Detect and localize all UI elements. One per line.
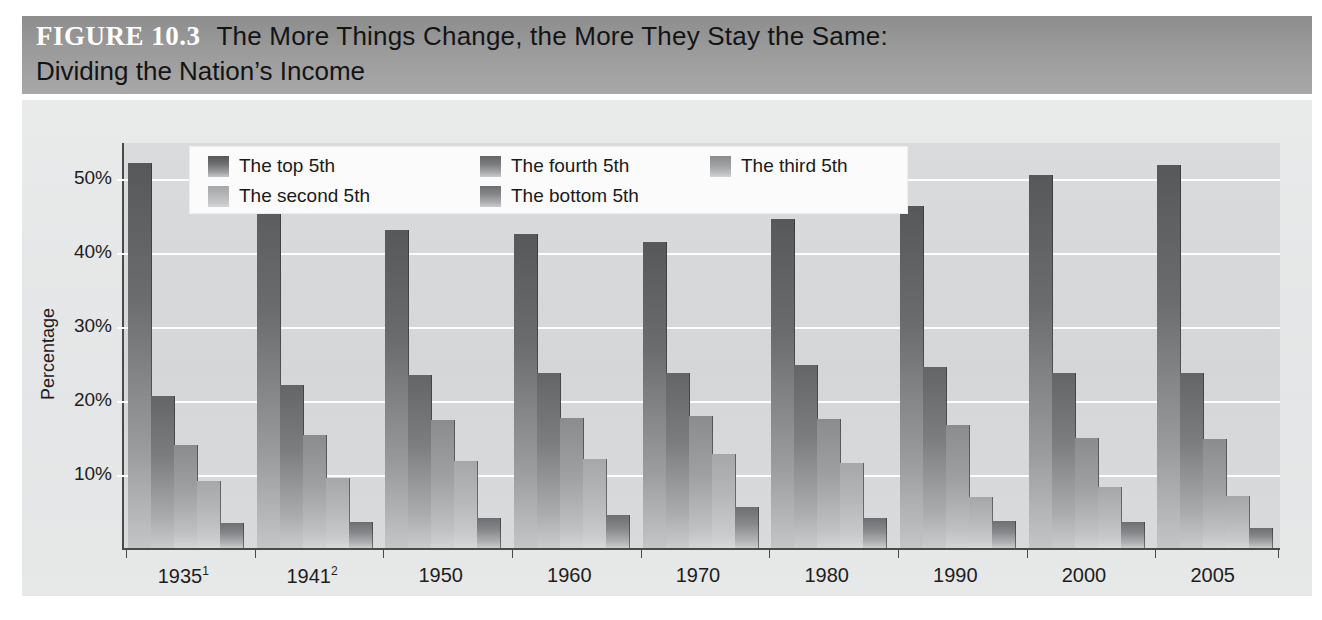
bar-2005-series-3 bbox=[1226, 496, 1250, 548]
bar-1935-series-3 bbox=[197, 481, 221, 548]
bar-2000-series-4 bbox=[1121, 522, 1145, 548]
bar-1990-series-3 bbox=[969, 497, 993, 548]
legend-label-0: The top 5th bbox=[239, 155, 335, 177]
bar-1960-series-0 bbox=[514, 234, 538, 549]
x-tick-1960 bbox=[512, 550, 513, 558]
x-tick-1990 bbox=[898, 550, 899, 558]
legend-item-3[interactable]: The second 5th bbox=[208, 185, 370, 207]
bar-1990-series-0 bbox=[900, 206, 924, 548]
legend-swatch-icon-2 bbox=[710, 156, 731, 177]
figure-panel: Percentage 10%20%30%40%50% The top 5thTh… bbox=[22, 100, 1312, 596]
x-axis-label-1980: 1980 bbox=[767, 564, 887, 587]
y-tick-label-30: 30% bbox=[52, 315, 112, 337]
bar-1941-series-3 bbox=[326, 478, 350, 548]
bar-1960-series-1 bbox=[537, 373, 561, 548]
bar-1960-series-3 bbox=[583, 459, 607, 548]
bar-1980-series-1 bbox=[794, 365, 818, 548]
bar-1980-series-4 bbox=[863, 518, 887, 548]
bar-1970-series-4 bbox=[735, 507, 759, 548]
x-axis-label-1941: 19412 bbox=[252, 564, 372, 588]
bar-1990-series-4 bbox=[992, 521, 1016, 548]
bar-2000-series-0 bbox=[1029, 175, 1053, 548]
bar-1950-series-4 bbox=[477, 518, 501, 548]
bar-1990-series-1 bbox=[923, 367, 947, 548]
y-tick-50 bbox=[117, 179, 126, 181]
bar-2005-series-1 bbox=[1180, 373, 1204, 548]
bar-1990-series-2 bbox=[946, 425, 970, 548]
y-tick-label-40: 40% bbox=[52, 241, 112, 263]
bar-group-1990 bbox=[900, 143, 1015, 548]
bar-1935-series-1 bbox=[151, 396, 175, 548]
bar-1980-series-2 bbox=[817, 419, 841, 549]
x-axis-label-1990: 1990 bbox=[895, 564, 1015, 587]
bar-1941-series-4 bbox=[349, 522, 373, 548]
bar-1970-series-2 bbox=[689, 416, 713, 548]
x-axis-label-1950: 1950 bbox=[381, 564, 501, 587]
bar-2005-series-0 bbox=[1157, 165, 1181, 548]
x-axis-label-2000: 2000 bbox=[1024, 564, 1144, 587]
legend-swatch-icon-1 bbox=[480, 156, 501, 177]
y-tick-20 bbox=[117, 401, 126, 403]
y-tick-label-20: 20% bbox=[52, 389, 112, 411]
x-tick-1980 bbox=[769, 550, 770, 558]
bar-1941-series-0 bbox=[257, 183, 281, 548]
x-tick-2005 bbox=[1155, 550, 1156, 558]
x-axis-label-1935: 19351 bbox=[123, 564, 243, 588]
x-tick-1950 bbox=[383, 550, 384, 558]
figure-title-main: The More Things Change, the More They St… bbox=[201, 21, 888, 51]
bar-2005-series-2 bbox=[1203, 439, 1227, 548]
bar-1950-series-2 bbox=[431, 420, 455, 548]
legend-swatch-icon-0 bbox=[208, 156, 229, 177]
legend-label-4: The bottom 5th bbox=[511, 185, 639, 207]
legend-item-0[interactable]: The top 5th bbox=[208, 155, 335, 177]
x-axis-label-1970: 1970 bbox=[638, 564, 758, 587]
y-tick-10 bbox=[117, 475, 126, 477]
legend-label-3: The second 5th bbox=[239, 185, 370, 207]
legend-swatch-icon-4 bbox=[480, 186, 501, 207]
bar-1935-series-4 bbox=[220, 523, 244, 548]
figure-title-line-2: Dividing the Nation’s Income bbox=[36, 56, 365, 87]
x-tick-1935 bbox=[126, 550, 127, 558]
legend-item-4[interactable]: The bottom 5th bbox=[480, 185, 639, 207]
x-tick-1941 bbox=[255, 550, 256, 558]
legend-item-1[interactable]: The fourth 5th bbox=[480, 155, 629, 177]
bar-1980-series-0 bbox=[771, 219, 795, 548]
bar-1970-series-3 bbox=[712, 454, 736, 548]
bar-1970-series-0 bbox=[643, 242, 667, 548]
bar-1935-series-2 bbox=[174, 445, 198, 548]
legend-label-1: The fourth 5th bbox=[511, 155, 629, 177]
bar-group-2000 bbox=[1029, 143, 1144, 548]
chart-legend: The top 5thThe fourth 5thThe third 5thTh… bbox=[190, 147, 907, 213]
legend-label-2: The third 5th bbox=[741, 155, 848, 177]
y-tick-40 bbox=[117, 253, 126, 255]
bar-2000-series-1 bbox=[1052, 373, 1076, 548]
figure-root: FIGURE 10.3The More Things Change, the M… bbox=[0, 0, 1322, 620]
legend-item-2[interactable]: The third 5th bbox=[710, 155, 848, 177]
x-tick-2000 bbox=[1027, 550, 1028, 558]
x-tick-end bbox=[1278, 550, 1279, 558]
legend-swatch-icon-3 bbox=[208, 186, 229, 207]
x-tick-1970 bbox=[641, 550, 642, 558]
bar-2000-series-3 bbox=[1098, 487, 1122, 548]
bar-1941-series-1 bbox=[280, 385, 304, 548]
bar-1960-series-2 bbox=[560, 418, 584, 548]
bar-1950-series-1 bbox=[408, 375, 432, 548]
plot-area: The top 5thThe fourth 5thThe third 5thTh… bbox=[122, 143, 1280, 550]
figure-title-line-1: FIGURE 10.3The More Things Change, the M… bbox=[36, 21, 888, 52]
y-tick-label-50: 50% bbox=[52, 167, 112, 189]
figure-number: FIGURE 10.3 bbox=[36, 21, 201, 51]
bar-1950-series-0 bbox=[385, 230, 409, 548]
y-tick-label-10: 10% bbox=[52, 463, 112, 485]
bar-1935-series-0 bbox=[128, 163, 152, 548]
bar-group-2005 bbox=[1157, 143, 1272, 548]
bar-1960-series-4 bbox=[606, 515, 630, 548]
bar-1941-series-2 bbox=[303, 435, 327, 548]
bar-1970-series-1 bbox=[666, 373, 690, 548]
bar-2000-series-2 bbox=[1075, 438, 1099, 548]
x-axis-label-1960: 1960 bbox=[509, 564, 629, 587]
bar-1950-series-3 bbox=[454, 461, 478, 548]
bar-2005-series-4 bbox=[1249, 528, 1273, 548]
y-tick-30 bbox=[117, 327, 126, 329]
bar-1980-series-3 bbox=[840, 463, 864, 548]
x-axis-label-2005: 2005 bbox=[1153, 564, 1273, 587]
